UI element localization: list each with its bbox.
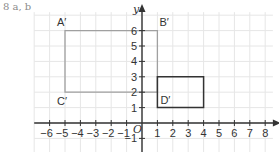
x-tick-label: −3 (87, 127, 100, 139)
x-tick-label: 6 (231, 127, 237, 139)
x-tick-label: −4 (71, 127, 84, 139)
x-tick-label: 1 (154, 127, 160, 139)
y-axis-arrow-icon (139, 4, 146, 12)
point-label-d-prime: D′ (160, 94, 170, 106)
y-tick-label: 5 (131, 40, 137, 52)
point-label-b-prime: B′ (159, 16, 168, 28)
origin-label: O (133, 123, 142, 136)
x-tick-label: −5 (56, 127, 69, 139)
x-tick-label: 3 (185, 127, 191, 139)
x-tick-label: 4 (201, 127, 207, 139)
x-tick-label: −6 (40, 127, 53, 139)
coordinate-grid: −6−5−4−3−2−112345678−1123456xyOA′B′C′D′ (0, 0, 279, 152)
point-label-a-prime: A′ (57, 16, 66, 28)
x-axis-arrow-icon (273, 120, 279, 127)
y-tick-label: 3 (131, 71, 137, 83)
x-tick-label: 8 (262, 127, 268, 139)
x-tick-label: 5 (216, 127, 222, 139)
x-tick-label: 7 (247, 127, 253, 139)
y-tick-label: 1 (131, 102, 137, 114)
point-label-c-prime: C′ (57, 95, 67, 107)
x-tick-label: 2 (170, 127, 176, 139)
y-axis-label: y (132, 3, 140, 16)
y-tick-label: 2 (131, 86, 137, 98)
y-tick-label: 6 (131, 25, 137, 37)
y-tick-label: 4 (131, 55, 137, 67)
x-tick-label: −2 (102, 127, 115, 139)
